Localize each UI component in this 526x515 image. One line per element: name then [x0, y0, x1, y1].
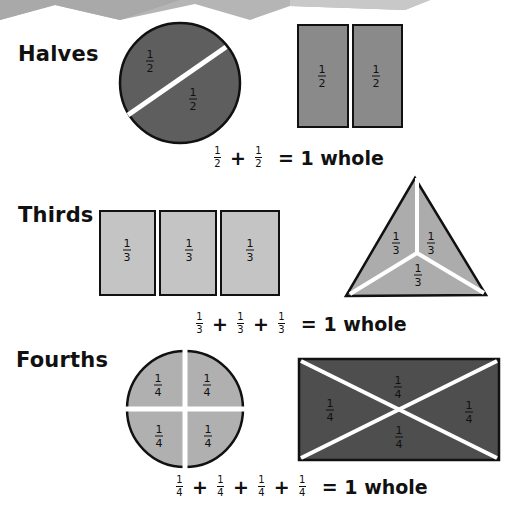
svg-text:3: 3 [393, 244, 400, 257]
svg-text:4: 4 [156, 437, 163, 450]
svg-text:1: 1 [147, 48, 154, 61]
plus-sign: + [253, 313, 269, 335]
svg-text:1: 1 [186, 237, 193, 250]
equation-result: = 1 whole [301, 313, 407, 335]
fraction: 13 [196, 312, 203, 335]
plus-sign: + [230, 147, 246, 169]
fraction: 14 [176, 475, 183, 498]
svg-text:1: 1 [156, 423, 163, 436]
equation-halves: 12 + 12 = 1 whole [208, 146, 384, 169]
plus-sign: + [274, 476, 290, 498]
equation-result: = 1 whole [322, 476, 428, 498]
svg-text:4: 4 [205, 437, 212, 450]
halves-circle: 1 2 1 2 [120, 23, 240, 143]
svg-text:1: 1 [155, 372, 162, 385]
svg-text:3: 3 [124, 251, 131, 264]
fraction: 13 [237, 312, 244, 335]
equation-fourths: 14 + 14 + 14 + 14 = 1 whole [170, 475, 428, 498]
plus-sign: + [192, 476, 208, 498]
svg-text:4: 4 [396, 438, 403, 451]
plus-sign: + [212, 313, 228, 335]
svg-text:1: 1 [393, 230, 400, 243]
svg-text:1: 1 [395, 374, 402, 387]
svg-text:2: 2 [373, 77, 380, 90]
svg-text:1: 1 [205, 423, 212, 436]
thirds-rectangle: 1 3 1 3 1 3 [100, 211, 279, 295]
svg-text:4: 4 [155, 386, 162, 399]
svg-text:2: 2 [190, 100, 197, 113]
svg-text:1: 1 [190, 86, 197, 99]
fourths-circle: 1 4 1 4 1 4 1 4 [125, 349, 245, 469]
fraction-shapes: 1 2 1 2 1 2 1 2 1 3 1 3 1 3 1 [0, 0, 526, 515]
svg-text:1: 1 [373, 63, 380, 76]
svg-text:3: 3 [247, 251, 254, 264]
svg-text:1: 1 [247, 237, 254, 250]
svg-text:1: 1 [428, 230, 435, 243]
equation-thirds: 13 + 13 + 13 = 1 whole [190, 312, 407, 335]
svg-text:3: 3 [428, 244, 435, 257]
svg-text:1: 1 [396, 424, 403, 437]
fraction: 12 [255, 146, 262, 169]
plus-sign: + [233, 476, 249, 498]
svg-text:1: 1 [415, 262, 422, 275]
fourths-rectangle: 1 4 1 4 1 4 1 4 [299, 359, 499, 460]
fraction: 14 [258, 475, 265, 498]
thirds-triangle: 1 3 1 3 1 3 [346, 178, 486, 296]
svg-text:4: 4 [466, 413, 473, 426]
svg-text:1: 1 [327, 397, 334, 410]
fraction: 14 [217, 475, 224, 498]
svg-text:1: 1 [319, 63, 326, 76]
svg-text:3: 3 [186, 251, 193, 264]
equation-result: = 1 whole [278, 147, 384, 169]
svg-text:1: 1 [124, 237, 131, 250]
svg-text:2: 2 [319, 77, 326, 90]
fraction: 12 [214, 146, 221, 169]
svg-text:1: 1 [466, 399, 473, 412]
fraction: 13 [278, 312, 285, 335]
svg-text:3: 3 [415, 276, 422, 289]
svg-text:2: 2 [147, 62, 154, 75]
svg-text:4: 4 [204, 386, 211, 399]
svg-text:4: 4 [395, 388, 402, 401]
svg-text:4: 4 [327, 411, 334, 424]
fraction: 14 [299, 475, 306, 498]
halves-rectangle: 1 2 1 2 [298, 25, 402, 127]
svg-text:1: 1 [204, 372, 211, 385]
